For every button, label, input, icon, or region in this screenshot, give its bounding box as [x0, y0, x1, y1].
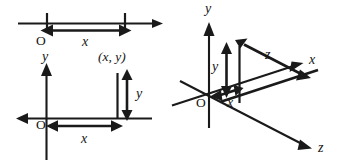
x-measure-arrowhead-right-icon [111, 120, 123, 132]
label-y-distance-2d: y [134, 86, 143, 101]
label-y-axis-2d: y [40, 49, 49, 64]
y-axis-arrowhead-icon-3d [204, 22, 215, 36]
y-axis-arrowhead-icon-2d [41, 63, 52, 76]
label-x-distance-3d: x [226, 95, 234, 110]
label-z-distance-3d: z [264, 47, 271, 62]
z-measure-arrowhead-upleft-icon [235, 39, 248, 49]
x-measure-arrowhead-left-icon [46, 120, 58, 132]
label-origin-1d: O [36, 33, 46, 48]
y-measure-arrowhead-up-icon [122, 69, 133, 80]
label-origin-2d: O [36, 117, 46, 132]
label-y-axis-3d: y [203, 1, 212, 16]
coordinate-systems-figure: O x y (x, y) O x y [0, 0, 357, 167]
panel-two-dimension: y (x, y) O x y [16, 49, 152, 160]
y-measure-arrowhead-up-icon-3d [221, 42, 232, 54]
panel-three-dimension: y x z z y [172, 1, 324, 155]
label-y-distance-3d: y [210, 59, 219, 74]
number-line-arrowhead-icon [152, 19, 163, 28]
z-axis-arrowhead-icon-3d [298, 140, 313, 151]
panel-one-dimension: O x [18, 13, 163, 49]
x-axis-arrowhead-icon-2d [16, 113, 28, 124]
label-x-distance-2d: x [80, 131, 88, 146]
figure-canvas: O x y (x, y) O x y [0, 0, 357, 167]
label-x-axis-3d: x [308, 52, 316, 67]
z-axis-line-3d [209, 96, 304, 145]
label-origin-3d: O [196, 95, 206, 110]
z-axis-back-extension-3d [180, 81, 209, 96]
label-point-xy-2d: (x, y) [98, 49, 126, 64]
label-z-axis-3d: z [317, 140, 324, 155]
label-distance-x-1d: x [81, 34, 89, 49]
